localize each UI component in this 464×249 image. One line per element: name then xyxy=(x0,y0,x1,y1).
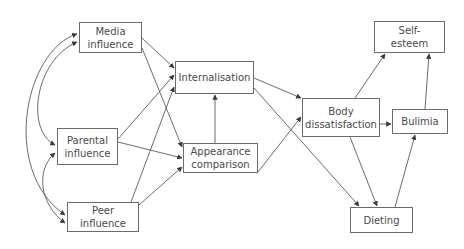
edge-internalisation-body xyxy=(254,78,301,98)
node-self-esteem: Self- esteem xyxy=(374,21,445,53)
node-parental-influence: Parental influence xyxy=(57,128,118,165)
node-internalisation: Internalisation xyxy=(175,61,254,94)
edge-bulimia-selfesteem xyxy=(425,54,429,109)
edge-body-dieting xyxy=(350,137,377,206)
edge-media-internalisation xyxy=(142,38,174,68)
node-body-dissatisfaction: Body dissatisfaction xyxy=(302,98,380,137)
node-dieting: Dieting xyxy=(350,207,413,233)
node-appearance-comparison: Appearance comparison xyxy=(183,143,258,173)
edge-media-peer xyxy=(26,34,77,215)
edge-peer-appearance xyxy=(139,167,182,205)
edge-peer-internalisation xyxy=(131,87,174,202)
edge-body-selfesteem xyxy=(355,54,385,98)
edge-dieting-bulimia xyxy=(395,135,415,207)
node-peer-influence: Peer influence xyxy=(67,202,139,232)
node-media-influence: Media influence xyxy=(79,22,142,53)
node-bulimia: Bulimia xyxy=(392,109,448,134)
edge-appearance-body xyxy=(258,117,301,172)
